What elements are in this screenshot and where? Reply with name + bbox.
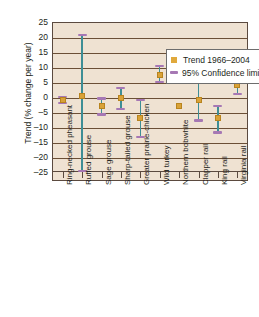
trend-marker (60, 97, 66, 103)
x-axis-category-label: Sage grouse (104, 140, 113, 185)
error-bar-line (81, 35, 83, 171)
x-axis-category-label: Clapper rail (201, 144, 210, 185)
chart-legend: Trend 1966–2004 95% Confidence limits (166, 49, 259, 84)
trend-marker (196, 97, 202, 103)
x-tick (102, 172, 103, 178)
x-tick (63, 172, 64, 178)
y-tick-label-20: 20 (26, 33, 48, 41)
legend-item-trend: Trend 1966–2004 (171, 53, 259, 66)
x-axis-category-label: Sharp-tailed grouse (123, 115, 132, 185)
error-bar-cap-upper (213, 105, 222, 108)
x-axis-category-label: Ruffed grouse (84, 135, 93, 185)
error-bar-cap-upper (78, 34, 87, 37)
y-tick-label-neg10: –10 (26, 123, 48, 131)
y-tick-label-0: 0 (26, 93, 48, 101)
y-tick-label-neg20: –20 (26, 153, 48, 161)
x-axis-category-label: Ring-necked pheasant (65, 105, 74, 185)
error-bar-cap-lower (194, 119, 203, 122)
error-bar-cap-lower (213, 131, 222, 134)
x-tick (199, 172, 200, 178)
error-bar-cap-upper (136, 99, 145, 102)
y-tick-label-15: 15 (26, 48, 48, 56)
x-axis-category-label: King rail (220, 156, 229, 185)
error-bar-cap-lower (116, 108, 125, 111)
trend-marker (215, 115, 221, 121)
x-axis-category-label: Northern bobwhite (181, 120, 190, 185)
y-tick-label-neg25: –25 (26, 168, 48, 176)
square-marker-icon (171, 57, 177, 63)
trend-marker (99, 103, 105, 109)
legend-item-confidence: 95% Confidence limits (171, 66, 259, 79)
y-tick-label-5: 5 (26, 78, 48, 86)
trend-marker (176, 103, 182, 109)
y-tick-label-neg15: –15 (26, 138, 48, 146)
x-axis-category-label: Greater prairie-chicken (142, 104, 151, 185)
error-bar-cap-lower (97, 113, 106, 116)
x-tick (121, 172, 122, 178)
dash-marker-icon (170, 71, 178, 74)
x-tick (82, 172, 83, 178)
x-axis-category-label: Wild turkey (162, 145, 171, 185)
legend-label-trend: Trend 1966–2004 (183, 55, 250, 65)
x-tick (218, 172, 219, 178)
x-tick (179, 172, 180, 178)
legend-label-confidence: 95% Confidence limits (182, 68, 259, 78)
trend-marker (118, 95, 124, 101)
chart-figure: Trend (% change per year) 25 20 15 10 5 … (0, 0, 259, 317)
error-bar-cap-lower (233, 93, 242, 96)
y-tick-label-neg5: –5 (26, 108, 48, 116)
x-tick (160, 172, 161, 178)
error-bar-cap-upper (97, 97, 106, 100)
y-tick-label-10: 10 (26, 63, 48, 71)
trend-marker (79, 93, 85, 99)
x-axis-category-label: Virginia rail (239, 146, 248, 185)
y-tick-label-25: 25 (26, 18, 48, 26)
trend-marker (157, 72, 163, 78)
error-bar-cap-upper (155, 65, 164, 68)
